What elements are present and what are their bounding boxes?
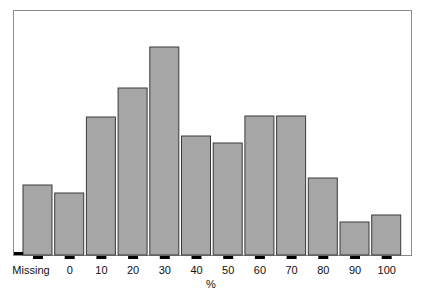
tick-label-100: 100 [378, 264, 396, 276]
tick-mark-40 [192, 256, 202, 259]
tick-label-90: 90 [349, 264, 361, 276]
tick-mark-10 [96, 256, 106, 259]
tick-label-50: 50 [222, 264, 234, 276]
tick-label-60: 60 [254, 264, 266, 276]
tick-mark-30 [160, 256, 170, 259]
bar-30 [150, 47, 179, 255]
tick-label-30: 30 [159, 264, 171, 276]
x-axis-label: % [206, 278, 216, 290]
tick-mark-60 [255, 256, 265, 259]
tick-labels-group: Missing0102030405060708090100 [12, 264, 396, 276]
tick-label-70: 70 [285, 264, 297, 276]
tick-label-0: 0 [67, 264, 73, 276]
bar-60 [245, 116, 274, 255]
tick-mark-90 [350, 256, 360, 259]
ticks-group [33, 256, 392, 259]
tick-label-missing: Missing [12, 264, 49, 276]
tick-mark-100 [382, 256, 392, 259]
tick-mark-80 [318, 256, 328, 259]
bar-80 [308, 178, 337, 255]
tick-mark-50 [223, 256, 233, 259]
tick-mark-70 [287, 256, 297, 259]
bar-missing [23, 185, 52, 255]
tick-label-80: 80 [317, 264, 329, 276]
missing-marker [14, 252, 23, 255]
bar-70 [277, 116, 306, 255]
bar-100 [372, 215, 401, 255]
tick-label-20: 20 [127, 264, 139, 276]
tick-mark-missing [33, 256, 43, 259]
bar-10 [86, 117, 115, 255]
tick-mark-0 [65, 256, 75, 259]
tick-mark-20 [128, 256, 138, 259]
bar-0 [55, 193, 84, 255]
bar-20 [118, 88, 147, 255]
histogram-chart: Missing0102030405060708090100 % [0, 0, 421, 295]
bar-90 [340, 222, 369, 255]
bar-40 [182, 136, 211, 255]
tick-label-10: 10 [95, 264, 107, 276]
bar-50 [213, 143, 242, 255]
tick-label-40: 40 [190, 264, 202, 276]
